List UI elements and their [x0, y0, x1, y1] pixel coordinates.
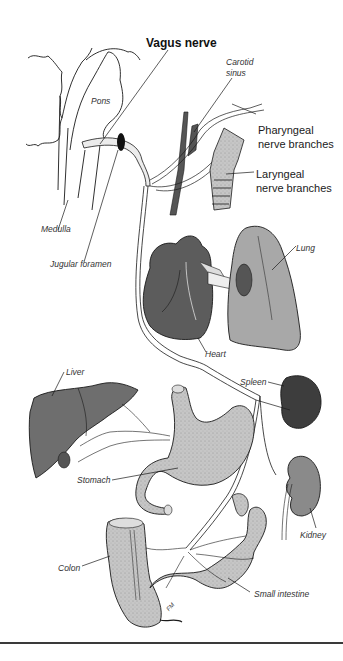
label-laryngeal-line1: Laryngeal: [256, 168, 304, 181]
heart-shape: [143, 236, 226, 340]
leader-jugular: [84, 150, 118, 262]
label-spleen: Spleen: [240, 378, 266, 387]
brainstem-outline: [26, 48, 140, 210]
label-carotid-line2: sinus: [226, 69, 246, 78]
larynx-trachea: [210, 128, 244, 210]
label-liver: Liver: [66, 368, 84, 377]
label-vagus-nerve: Vagus nerve: [146, 36, 217, 50]
jugular-foramen-shape: [117, 133, 125, 151]
label-pons: Pons: [91, 97, 110, 106]
label-carotid-line1: Carotid: [226, 58, 253, 67]
kidney-shape: [282, 456, 320, 540]
vagus-nerve-trunk: [82, 138, 150, 186]
label-pharyngeal-line1: Pharyngeal: [258, 124, 314, 137]
vagus-nerve-diagram: Vagus nerve Carotid sinus Pons Pharyngea…: [0, 0, 343, 661]
label-pharyngeal-line2: nerve branches: [258, 138, 334, 151]
label-colon: Colon: [58, 564, 80, 573]
leader-pharyngeal: [232, 104, 256, 114]
bottom-rule-divider: [0, 642, 343, 644]
label-laryngeal-line2: nerve branches: [256, 182, 332, 195]
leader-colon: [82, 556, 110, 566]
liver-shape: [29, 383, 138, 478]
leader-kidney: [310, 508, 316, 528]
label-heart: Heart: [205, 350, 226, 359]
leader-carotid: [194, 78, 232, 132]
carotid-artery: [170, 112, 198, 215]
label-lung: Lung: [296, 244, 315, 253]
label-stomach: Stomach: [77, 476, 111, 485]
label-medulla: Medulla: [41, 225, 71, 234]
label-small-intestine: Small intestine: [254, 590, 309, 599]
anatomy-illustration: [0, 0, 343, 661]
leader-spleen: [268, 382, 284, 386]
pharyngeal-branches: [150, 104, 264, 191]
leader-small-intestine: [228, 578, 250, 592]
lung-shape: [228, 226, 301, 350]
label-jugular-foramen: Jugular foramen: [50, 260, 111, 269]
label-kidney: Kidney: [300, 531, 326, 540]
